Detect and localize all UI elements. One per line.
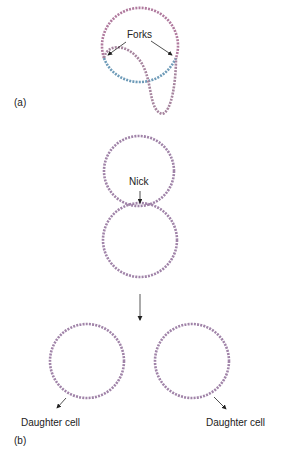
theta-structure — [102, 8, 178, 114]
replication-diagram — [0, 0, 284, 461]
daughter-cell-right-label: Daughter cell — [206, 417, 265, 428]
daughter-circles — [50, 324, 229, 409]
panel-b-label: (b) — [14, 435, 26, 446]
panel-a-label: (a) — [14, 97, 26, 108]
forks-label: Forks — [127, 29, 152, 40]
daughter-arrow-left — [57, 398, 66, 408]
fork-arrow-left — [108, 42, 126, 55]
daughter-cell-left-label: Daughter cell — [21, 417, 80, 428]
daughter-arrow-right — [214, 397, 226, 409]
catenane — [103, 136, 177, 277]
nick-label: Nick — [129, 176, 148, 187]
fork-arrow-right — [151, 41, 172, 55]
